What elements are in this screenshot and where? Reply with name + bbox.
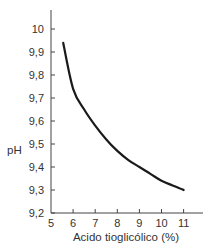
y-tick-label: 9,7 [29,92,44,104]
chart: 9,29,39,49,59,69,79,89,910 567891011 pH … [0,0,213,249]
y-axis-label: pH [7,144,22,156]
series-line-ph [63,43,183,190]
x-tick-label: 6 [70,217,76,229]
x-tick-label: 9 [136,217,142,229]
series-group [63,43,183,190]
y-tick-label: 9,2 [29,207,44,219]
x-tick-label: 7 [92,217,98,229]
y-ticks: 9,29,39,49,59,69,79,89,910 [29,23,55,219]
y-tick-label: 9,9 [29,46,44,58]
y-tick-label: 9,3 [29,184,44,196]
y-tick-label: 9,8 [29,69,44,81]
y-tick-label: 10 [32,23,44,35]
x-axis-label: Acido tioglicólico (%) [73,231,179,243]
y-tick-label: 9,5 [29,138,44,150]
x-ticks: 567891011 [48,209,189,229]
x-tick-label: 8 [114,217,120,229]
x-tick-label: 11 [178,217,189,229]
y-tick-label: 9,4 [29,161,44,173]
y-tick-label: 9,6 [29,115,44,127]
x-tick-label: 5 [48,217,54,229]
x-tick-label: 10 [155,217,167,229]
